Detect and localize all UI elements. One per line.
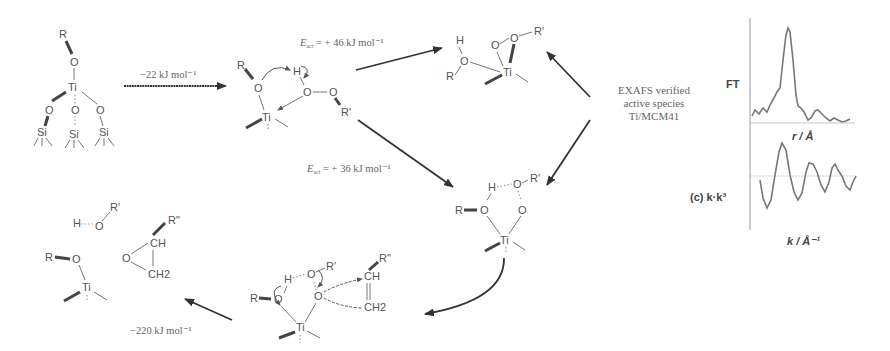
energy-final-step: −220 kJ mol⁻¹ [130, 325, 192, 336]
atom-label: O [122, 252, 131, 264]
atom-label: CH [364, 270, 380, 282]
atom-label: O [314, 290, 323, 302]
atom-label: O [96, 104, 105, 116]
atom-label: O [460, 55, 469, 67]
atom-label: R' [341, 106, 351, 118]
annotation-line3: Ti/MCM41 [629, 110, 679, 122]
energy-path-bottom: Eact = + 36 kJ mol⁻¹ [306, 163, 391, 175]
atom-label: Si [99, 126, 109, 138]
atom-label: H [284, 273, 292, 285]
annotation-line1: EXAFS verified [618, 84, 690, 96]
k-panel-label: (c) k·k³ [690, 191, 726, 203]
atom-label: O [480, 204, 489, 216]
ft-trace [752, 28, 850, 122]
atom-label: R' [530, 172, 540, 184]
atom-label: CH2 [364, 301, 386, 313]
k-space-trace [760, 143, 856, 208]
atom-label: O [72, 253, 81, 265]
energy-step1: −22 kJ mol⁻¹ [140, 69, 197, 80]
exafs-annotation: EXAFS verified active species Ti/MCM41 [618, 84, 690, 122]
atom-label: R" [168, 214, 180, 226]
atom-label: R [250, 292, 258, 304]
atom-label: O [510, 32, 519, 44]
atom-label: O [274, 293, 283, 305]
atom-label: O [71, 104, 80, 116]
atom-label: Ti [503, 66, 512, 78]
atom-label: R [446, 70, 454, 82]
atom-label: H [73, 217, 81, 229]
atom-label: CH2 [148, 268, 170, 280]
atom-label: H [293, 65, 301, 77]
atom-label: O [70, 56, 79, 68]
atom-label: R [237, 59, 245, 71]
atom-label: O [518, 204, 527, 216]
structure-precursor: R O Ti O O O Si Si Si [34, 28, 114, 148]
atom-label: R' [534, 25, 544, 37]
atom-label: Si [69, 128, 79, 140]
exafs-panel: FT r / Å (c) k·k³ k / Å⁻¹ [690, 18, 856, 247]
epoxidation-mechanism-diagram: R O Ti O O O Si Si Si −22 kJ mol⁻¹ R O H… [0, 0, 890, 351]
atom-label: O [491, 39, 500, 51]
r-axis-label: r / Å [792, 130, 813, 142]
atom-label: O [95, 220, 104, 232]
atom-label: O [329, 86, 338, 98]
structure-active-species: H O R' R O O Ti [455, 172, 540, 254]
ft-label: FT [726, 78, 740, 90]
atom-label: Si [37, 126, 47, 138]
atom-label: O [254, 82, 263, 94]
atom-label: R' [110, 201, 120, 213]
eact-value: = + 46 kJ mol⁻¹ [313, 37, 383, 48]
atom-label: O [303, 86, 312, 98]
atom-label: R [455, 204, 463, 216]
k-axis-label: k / Å⁻¹ [787, 235, 820, 247]
atom-label: H [456, 34, 464, 46]
atom-label: R [45, 251, 53, 263]
structure-transition-state: H O R' R O O Ti CH R" CH2 [250, 252, 391, 343]
structure-top-product: H O R O O R' Ti [446, 25, 544, 84]
atom-label: O [307, 268, 316, 280]
atom-label: Ti [68, 81, 77, 93]
atom-label: Ti [296, 321, 305, 333]
atom-label: Ti [500, 234, 509, 246]
atom-label: R' [326, 260, 336, 272]
energy-path-top: Eact = + 46 kJ mol⁻¹ [299, 37, 384, 49]
atom-label: CH [150, 237, 166, 249]
atom-label: H [488, 181, 496, 193]
structure-products: H O R' R O Ti R" CH O CH2 [45, 201, 180, 302]
atom-label: O [45, 104, 54, 116]
atom-label: Ti [262, 111, 271, 123]
atom-label: R [59, 28, 67, 40]
eact-value: = + 36 kJ mol⁻¹ [320, 163, 390, 174]
atom-label: Ti [82, 281, 91, 293]
atom-label: R" [379, 252, 391, 264]
structure-peroxide-adduct: R O H O O R' Ti [237, 59, 351, 131]
annotation-line2: active species [624, 97, 685, 109]
atom-label: O [513, 178, 522, 190]
